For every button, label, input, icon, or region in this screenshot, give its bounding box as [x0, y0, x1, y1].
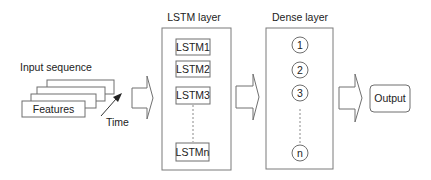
lstm-unit-2-label: LSTM2 — [176, 63, 210, 75]
dense-layer-title: Dense layer — [272, 11, 329, 23]
features-label: Features — [33, 103, 74, 115]
time-label: Time — [106, 116, 129, 128]
input-sequence-group: Input sequence Features Time — [20, 61, 129, 128]
block-arrow-dense-to-output-icon — [339, 74, 362, 122]
output-group: Output — [370, 85, 410, 112]
block-arrow-input-to-lstm-icon — [132, 76, 153, 119]
lstm-layer-title: LSTM layer — [167, 11, 221, 23]
dense-node-n-label: n — [297, 147, 303, 159]
dense-layer-group: Dense layer 1 2 3 n — [266, 11, 333, 169]
lstm-layer-group: LSTM layer LSTM1 LSTM2 LSTM3 LSTMn — [162, 11, 231, 170]
lstm-unit-1-label: LSTM1 — [176, 41, 210, 53]
input-sequence-label: Input sequence — [20, 61, 92, 73]
time-arrow-line — [101, 99, 116, 116]
dense-node-1-label: 1 — [297, 39, 303, 51]
lstm-architecture-diagram: Input sequence Features Time LSTM layer … — [0, 0, 431, 180]
block-arrow-lstm-to-dense-icon — [236, 74, 259, 120]
dense-node-3-label: 3 — [297, 87, 303, 99]
dense-node-2-label: 2 — [297, 64, 303, 76]
output-label: Output — [374, 92, 406, 104]
lstm-unit-3-label: LSTM3 — [176, 89, 210, 101]
lstm-unit-n-label: LSTMn — [176, 146, 210, 158]
